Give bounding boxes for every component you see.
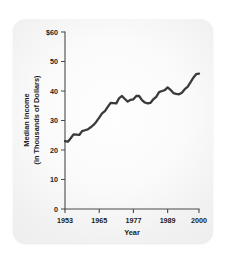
y-tick-label: $60	[46, 28, 58, 37]
chart-card: 01020304050$60 19531965197719892000 Year…	[13, 19, 213, 243]
x-tick-label: 1953	[57, 216, 73, 225]
y-tick-label: 50	[50, 57, 58, 66]
y-tick-label: 40	[50, 87, 58, 96]
x-tick-label: 1989	[160, 216, 176, 225]
line-chart: 01020304050$60 19531965197719892000 Year…	[13, 19, 213, 243]
y-axis-ticks: 01020304050$60	[46, 28, 65, 214]
x-axis-title: Year	[124, 228, 140, 237]
x-tick-label: 1965	[91, 216, 107, 225]
y-tick-label: 30	[50, 116, 58, 125]
y-tick-label: 20	[50, 146, 58, 155]
y-tick-label: 0	[54, 205, 58, 214]
data-series-line	[65, 74, 199, 142]
y-tick-label: 10	[50, 175, 58, 184]
x-tick-label: 2000	[191, 216, 207, 225]
y-axis-title-line2: (in Thousands of Dollars)	[32, 75, 41, 165]
figure-root: 01020304050$60 19531965197719892000 Year…	[0, 0, 226, 258]
x-tick-label: 1977	[125, 216, 141, 225]
y-axis-title-line1: Median Income	[22, 93, 31, 146]
x-axis-ticks: 19531965197719892000	[57, 209, 207, 225]
